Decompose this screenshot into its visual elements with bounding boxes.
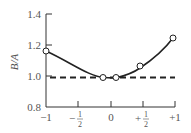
x-tick-label: −1 xyxy=(40,111,52,123)
x-tick-label: +1 xyxy=(169,111,181,123)
chart: 1.4 1.2 1.0 0.8 B/A −1 − 1 2 0 + 1 2 +1 xyxy=(0,0,191,133)
y-tick-label: 1.4 xyxy=(27,8,41,20)
x-tick-label: − xyxy=(69,112,75,124)
data-point xyxy=(100,75,106,81)
svg-text:1: 1 xyxy=(78,110,82,119)
data-point xyxy=(137,63,143,69)
y-tick-label: 1.0 xyxy=(27,70,41,82)
data-point xyxy=(113,75,119,81)
svg-text:2: 2 xyxy=(144,120,148,129)
y-axis-label: B/A xyxy=(8,53,20,70)
x-tick-label: 0 xyxy=(108,111,114,123)
y-tick-label: 1.2 xyxy=(27,39,41,51)
data-curve xyxy=(46,38,173,78)
svg-text:2: 2 xyxy=(78,120,82,129)
data-point xyxy=(170,35,176,41)
svg-text:1: 1 xyxy=(144,110,148,119)
x-tick-label: + xyxy=(135,112,141,124)
data-point xyxy=(43,48,49,54)
